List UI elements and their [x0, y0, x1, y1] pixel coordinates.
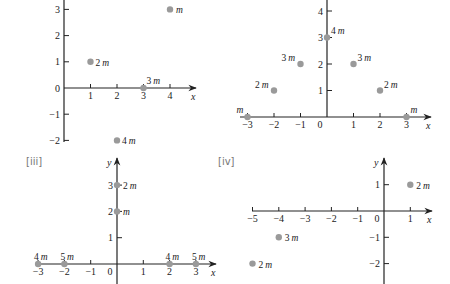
mass-label: m — [176, 5, 183, 15]
y-tick-label: −1 — [49, 109, 60, 120]
x-tick-label: 2 — [167, 266, 172, 277]
y-axis-label: y — [373, 157, 379, 168]
x-tick-label: −2 — [59, 266, 70, 277]
panel-ii-plot: x−3−2−1012343214 m3 m3 m2 m2 mmm — [237, 0, 432, 131]
mass-label: 2 m — [255, 80, 269, 90]
x-axis-label: x — [210, 267, 216, 278]
point-mass-dot — [114, 208, 120, 214]
panel-iii-plot: [iii]xy−3−2−101233212 mm4 m5 m4 m5 m — [26, 156, 216, 284]
mass-label: 2 m — [123, 181, 137, 191]
x-tick-label: 3 — [193, 266, 198, 277]
mass-label: 4 m — [166, 252, 180, 262]
y-tick-label: 2 — [55, 30, 60, 41]
y-tick-label: −1 — [369, 232, 380, 243]
y-tick-label: 2 — [108, 206, 113, 217]
mass-label: 4 m — [34, 252, 48, 262]
y-tick-label: 3 — [55, 4, 60, 15]
point-mass-dot — [114, 137, 120, 143]
x-tick-label: −3 — [300, 213, 311, 224]
x-tick-label: −1 — [85, 266, 96, 277]
point-mass-dot — [249, 260, 255, 266]
panel-label: [iv] — [218, 156, 235, 167]
x-tick-label: 4 — [168, 90, 173, 101]
point-mass-dot — [324, 34, 330, 40]
y-tick-label: 2 — [318, 59, 323, 70]
x-tick-label: −2 — [326, 213, 337, 224]
mass-label: 5 m — [60, 252, 74, 262]
point-mass-dot — [271, 87, 277, 93]
y-tick-label: 4 — [318, 6, 323, 17]
y-tick-label: 3 — [108, 180, 113, 191]
x-tick-label: 3 — [404, 119, 409, 130]
panel-label: [iii] — [26, 156, 42, 167]
x-tick-label: 1 — [141, 266, 146, 277]
x-tick-label: −3 — [242, 119, 253, 130]
x-tick-label: 1 — [408, 213, 413, 224]
point-mass-dot — [403, 114, 409, 120]
x-tick-label: 0 — [318, 119, 323, 130]
y-axis-label: y — [106, 157, 112, 168]
x-tick-label: 1 — [351, 119, 356, 130]
point-mass-dot — [87, 59, 93, 65]
x-tick-label: −5 — [247, 213, 258, 224]
panel-iv-plot: [iv]xy−5−4−3−2−1011−1−22 m3 m2 m — [218, 156, 432, 284]
x-tick-label: −4 — [273, 213, 284, 224]
mass-label: m — [411, 105, 418, 115]
x-tick-label: 3 — [141, 90, 146, 101]
point-mass-dot — [276, 234, 282, 240]
mass-distribution-diagrams: x12343210−1−2m2 m3 m4 m x−3−2−1012343214… — [0, 0, 450, 284]
x-tick-label: 0 — [375, 213, 380, 224]
x-axis-label: x — [425, 120, 431, 131]
y-tick-label: 0 — [55, 83, 60, 94]
x-tick-label: 0 — [108, 266, 113, 277]
mass-label: 4 m — [122, 136, 136, 146]
point-mass-dot — [407, 182, 413, 188]
mass-label: 2 m — [416, 181, 430, 191]
point-mass-dot — [244, 114, 250, 120]
point-mass-dot — [350, 61, 356, 67]
point-mass-dot — [167, 6, 173, 12]
x-tick-label: 1 — [88, 90, 93, 101]
x-tick-label: −1 — [295, 119, 306, 130]
x-axis-label: x — [190, 91, 196, 102]
y-tick-label: 1 — [55, 56, 60, 67]
y-tick-label: 3 — [318, 32, 323, 43]
x-tick-label: −2 — [269, 119, 280, 130]
y-tick-label: 1 — [375, 179, 380, 190]
y-tick-label: −2 — [49, 135, 60, 146]
mass-label: 4 m — [331, 26, 345, 36]
x-tick-label: 2 — [115, 90, 120, 101]
mass-label: 3 m — [358, 53, 372, 63]
y-tick-label: 1 — [108, 232, 113, 243]
mass-label: 3 m — [282, 53, 296, 63]
mass-label: 2 m — [384, 80, 398, 90]
panel-i-plot: x12343210−1−2m2 m3 m4 m — [49, 0, 196, 146]
point-mass-dot — [377, 87, 383, 93]
mass-label: m — [123, 207, 130, 217]
y-tick-label: −2 — [369, 258, 380, 269]
mass-label: 3 m — [285, 233, 299, 243]
y-tick-label: 1 — [318, 85, 323, 96]
mass-label: 3 m — [147, 76, 161, 86]
mass-label: 5 m — [192, 252, 206, 262]
x-tick-label: −1 — [352, 213, 363, 224]
x-tick-label: 2 — [378, 119, 383, 130]
x-axis-label: x — [426, 214, 432, 225]
mass-label: 2 m — [259, 260, 273, 270]
point-mass-dot — [297, 61, 303, 67]
point-mass-dot — [114, 182, 120, 188]
mass-label: 2 m — [96, 58, 110, 68]
diagram-stage: x12343210−1−2m2 m3 m4 m x−3−2−1012343214… — [0, 0, 450, 284]
x-tick-label: −3 — [33, 266, 44, 277]
mass-label: m — [237, 105, 244, 115]
